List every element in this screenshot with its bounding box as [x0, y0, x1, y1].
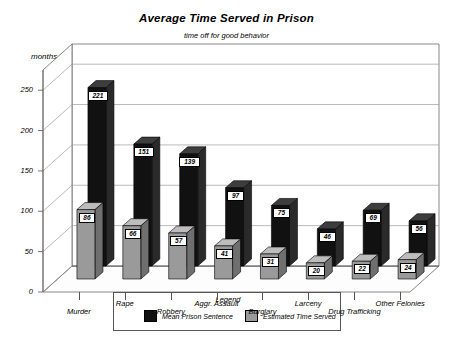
chart-container: Average Time Served in Prison time off f…	[0, 0, 453, 347]
legend-swatch-dark	[144, 310, 157, 322]
y-axis-tick-label: 50	[9, 247, 33, 256]
bar-value-label: 151	[134, 147, 155, 157]
chart-legend: Legend Mean Prison Sentence Estimated Ti…	[113, 292, 341, 331]
y-axis-tick-label: 100	[9, 206, 33, 215]
bar-value-label: 20	[308, 266, 324, 276]
x-axis-category-label: Drug Trafficking	[328, 307, 380, 316]
y-axis-tick-label: 0	[9, 287, 33, 296]
bar-value-label: 97	[227, 191, 243, 201]
bar-value-label: 22	[354, 264, 370, 274]
bar-value-label: 31	[262, 257, 278, 267]
bar-value-label: 86	[79, 213, 95, 223]
bar-value-label: 57	[170, 236, 186, 246]
x-axis-tick	[354, 292, 355, 300]
x-axis-category-label: Robbery	[157, 307, 185, 316]
bar-value-label: 75	[273, 208, 289, 218]
bar-value-label: 56	[411, 224, 427, 234]
x-axis-category-label: Rape	[116, 299, 134, 308]
y-axis-tick-label: 250	[9, 85, 33, 94]
bar-value-label: 139	[179, 157, 200, 167]
x-axis-tick	[171, 292, 172, 300]
y-axis-tick-label: 200	[9, 126, 33, 135]
x-axis-category-label: Burglary	[248, 307, 276, 316]
y-axis-tick-label: 150	[9, 166, 33, 175]
x-axis-category-label: Larceny	[295, 299, 322, 308]
x-axis-category-label: Other Felonies	[376, 299, 425, 308]
bar-value-label: 66	[125, 229, 141, 239]
bar-value-label: 69	[365, 213, 381, 223]
bar-value-label: 41	[216, 249, 232, 259]
bar-value-label: 46	[319, 232, 335, 242]
x-axis-tick	[262, 292, 263, 300]
x-axis-category-label: Murder	[67, 307, 91, 316]
bar-value-label: 24	[400, 263, 416, 273]
x-axis-category-label: Aggr. Assault	[195, 299, 239, 308]
x-axis-tick	[79, 292, 80, 300]
bar-value-label: 221	[88, 91, 109, 101]
